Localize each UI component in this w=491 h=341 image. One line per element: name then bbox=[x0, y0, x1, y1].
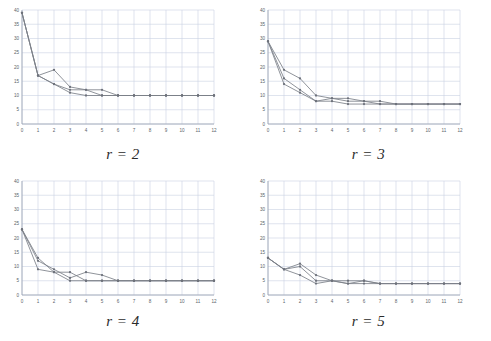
x-tick-label: 9 bbox=[165, 128, 168, 133]
y-tick-label: 10 bbox=[14, 264, 20, 269]
x-tick-label: 0 bbox=[267, 299, 270, 304]
y-tick-label: 40 bbox=[260, 179, 266, 184]
series-point bbox=[331, 100, 333, 102]
series-point bbox=[133, 280, 135, 282]
series-point bbox=[315, 274, 317, 276]
series-point bbox=[37, 257, 39, 259]
series-point bbox=[347, 100, 349, 102]
line-chart-svg: 05101520253035400123456789101112 bbox=[0, 171, 222, 311]
x-tick-label: 2 bbox=[53, 299, 56, 304]
x-tick-label: 5 bbox=[347, 299, 350, 304]
x-tick-label: 12 bbox=[211, 128, 217, 133]
series-point bbox=[181, 280, 183, 282]
x-tick-label: 2 bbox=[299, 299, 302, 304]
series-point bbox=[283, 77, 285, 79]
x-tick-label: 0 bbox=[21, 128, 24, 133]
y-tick-label: 20 bbox=[14, 236, 20, 241]
series-point bbox=[363, 100, 365, 102]
series-point bbox=[69, 280, 71, 282]
series-point bbox=[347, 103, 349, 105]
x-tick-label: 3 bbox=[315, 128, 318, 133]
plot-area-r5: 05101520253035400123456789101112 bbox=[246, 171, 468, 311]
plot-area-r4: 05101520253035400123456789101112 bbox=[0, 171, 222, 311]
plot-area-r2: 05101520253035400123456789101112 bbox=[0, 0, 222, 140]
chart-caption-r2: r = 2 bbox=[0, 146, 246, 163]
series-point bbox=[213, 280, 215, 282]
x-tick-label: 7 bbox=[379, 299, 382, 304]
x-tick-label: 8 bbox=[149, 299, 152, 304]
x-tick-label: 5 bbox=[101, 299, 104, 304]
y-tick-label: 20 bbox=[260, 236, 266, 241]
x-tick-label: 9 bbox=[165, 299, 168, 304]
series-point bbox=[427, 282, 429, 284]
x-tick-label: 11 bbox=[196, 128, 201, 133]
series-point bbox=[379, 103, 381, 105]
x-tick-label: 6 bbox=[117, 299, 120, 304]
x-tick-label: 3 bbox=[69, 128, 72, 133]
y-tick-label: 40 bbox=[14, 8, 20, 13]
series-point bbox=[395, 103, 397, 105]
series-point bbox=[299, 263, 301, 265]
x-tick-label: 3 bbox=[315, 299, 318, 304]
x-tick-label: 2 bbox=[299, 128, 302, 133]
series-point bbox=[299, 274, 301, 276]
series-point bbox=[363, 280, 365, 282]
chart-panel-r3: 05101520253035400123456789101112 r = 3 bbox=[246, 0, 491, 171]
series-point bbox=[69, 92, 71, 94]
y-tick-label: 30 bbox=[14, 36, 20, 41]
series-point bbox=[101, 89, 103, 91]
y-tick-label: 15 bbox=[14, 79, 20, 84]
y-tick-label: 5 bbox=[262, 107, 265, 112]
x-tick-label: 12 bbox=[457, 128, 463, 133]
y-tick-label: 30 bbox=[260, 36, 266, 41]
x-tick-label: 8 bbox=[395, 299, 398, 304]
y-tick-label: 5 bbox=[16, 278, 19, 283]
x-tick-label: 1 bbox=[283, 299, 286, 304]
series-point bbox=[149, 280, 151, 282]
line-chart-svg: 05101520253035400123456789101112 bbox=[246, 171, 468, 311]
y-tick-label: 25 bbox=[260, 221, 266, 226]
y-tick-label: 10 bbox=[14, 93, 20, 98]
series-point bbox=[395, 282, 397, 284]
chart-panel-r4: 05101520253035400123456789101112 r = 4 bbox=[0, 171, 246, 341]
y-tick-label: 10 bbox=[260, 264, 266, 269]
y-tick-label: 5 bbox=[16, 107, 19, 112]
series-point bbox=[37, 74, 39, 76]
series-point bbox=[299, 77, 301, 79]
series-point bbox=[181, 94, 183, 96]
series-point bbox=[331, 280, 333, 282]
series-point bbox=[299, 92, 301, 94]
series-point bbox=[379, 282, 381, 284]
x-tick-label: 10 bbox=[425, 299, 431, 304]
series-point bbox=[37, 260, 39, 262]
series-point bbox=[165, 280, 167, 282]
series-point bbox=[459, 103, 461, 105]
x-tick-label: 0 bbox=[267, 128, 270, 133]
chart-caption-r5: r = 5 bbox=[246, 313, 491, 330]
y-tick-label: 25 bbox=[14, 221, 20, 226]
series-point bbox=[85, 280, 87, 282]
series-point bbox=[347, 97, 349, 99]
x-tick-label: 4 bbox=[85, 299, 88, 304]
series-point bbox=[299, 89, 301, 91]
series-point bbox=[117, 94, 119, 96]
x-tick-label: 7 bbox=[379, 128, 382, 133]
series-point bbox=[21, 228, 23, 230]
y-tick-label: 20 bbox=[14, 65, 20, 70]
y-tick-label: 5 bbox=[262, 278, 265, 283]
x-tick-label: 2 bbox=[53, 128, 56, 133]
series-point bbox=[363, 103, 365, 105]
x-tick-label: 9 bbox=[411, 128, 414, 133]
series-point bbox=[149, 94, 151, 96]
series-point bbox=[299, 265, 301, 267]
y-tick-label: 15 bbox=[260, 79, 266, 84]
series-point bbox=[443, 282, 445, 284]
y-tick-label: 15 bbox=[14, 250, 20, 255]
x-tick-label: 8 bbox=[395, 128, 398, 133]
x-tick-label: 10 bbox=[179, 299, 185, 304]
x-tick-label: 6 bbox=[363, 128, 366, 133]
series-point bbox=[53, 83, 55, 85]
series-point bbox=[267, 257, 269, 259]
x-tick-label: 12 bbox=[457, 299, 463, 304]
series-point bbox=[117, 280, 119, 282]
